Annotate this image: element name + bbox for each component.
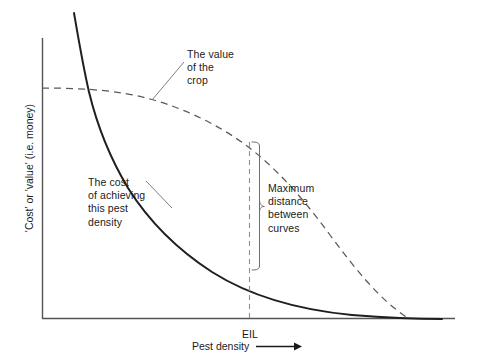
x-axis-label-group: Pest density bbox=[192, 340, 302, 352]
x-tick-label-eil: EIL bbox=[232, 328, 268, 340]
value-of-crop-leader-line bbox=[152, 62, 184, 100]
y-axis-label: 'Cost' or 'value' (i.e. money) bbox=[23, 104, 35, 232]
cost-of-achieving-curve bbox=[74, 13, 442, 319]
chart-canvas bbox=[0, 0, 481, 362]
y-axis-label-group: 'Cost' or 'value' (i.e. money) bbox=[21, 88, 37, 248]
chart-figure: The value of the crop The cost of achiev… bbox=[0, 0, 481, 362]
x-axis-label: Pest density bbox=[192, 340, 249, 352]
right-arrow-icon bbox=[256, 341, 302, 352]
cost-of-achieving-leader-line bbox=[146, 181, 172, 208]
annotation-max-distance: Maximum distance between curves bbox=[268, 182, 314, 235]
annotation-value-of-crop: The value of the crop bbox=[187, 48, 234, 88]
annotation-cost-of-achieving: The cost of achieving this pest density bbox=[88, 176, 145, 229]
max-distance-brace bbox=[252, 142, 264, 270]
